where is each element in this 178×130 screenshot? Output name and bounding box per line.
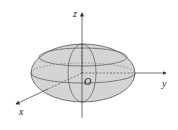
x-axis xyxy=(16,89,48,104)
y-axis-label: y xyxy=(161,78,167,89)
x-axis-label: x xyxy=(18,106,24,117)
ellipsoid-diagram: z y x O xyxy=(0,0,178,130)
origin-label: O xyxy=(84,76,91,87)
z-axis-label: z xyxy=(72,8,77,19)
